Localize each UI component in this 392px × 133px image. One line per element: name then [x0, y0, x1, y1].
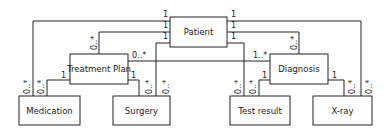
- class-patient: Patient: [170, 17, 227, 47]
- mult-treatmentplan-surgery-1: 1: [131, 71, 136, 80]
- class-diagram: Patient Treatment Plan Diagnosis Medicat…: [0, 0, 392, 133]
- mult-treatmentplan-diagnosis-0many: 0..*: [132, 51, 146, 60]
- assoc-treatmentplan-medication: [47, 80, 70, 96]
- mult-surgery-patient-0many: 0..*: [162, 80, 171, 94]
- mult-patient-medication-1: 1: [163, 10, 168, 19]
- mult-treatmentplan-medication-1: 1: [61, 71, 66, 80]
- mult-testresult-patient-0many: 0..*: [234, 80, 243, 94]
- class-surgery: Surgery: [113, 96, 170, 125]
- mult-medication-patient-0many: 0..*: [23, 80, 32, 94]
- class-label-medication: Medication: [26, 106, 72, 116]
- class-label-xray: X-ray: [331, 106, 353, 116]
- class-treatment-plan: Treatment Plan: [66, 54, 131, 84]
- mult-xray-patient-0many: 0..*: [365, 80, 374, 94]
- class-diagnosis: Diagnosis: [270, 54, 328, 84]
- mult-patient-testresult-1: 1: [231, 32, 236, 41]
- mult-patient-xray-1: 1: [231, 10, 236, 19]
- class-label-patient: Patient: [184, 27, 214, 37]
- mult-diagnosis-testresult-1: 1: [262, 71, 267, 80]
- assoc-diagnosis-xray: [328, 80, 344, 96]
- assoc-treatmentplan-surgery: [128, 80, 139, 96]
- class-label-surgery: Surgery: [125, 106, 158, 116]
- mult-patient-surgery-1: 1: [163, 32, 168, 41]
- class-label-treatment-plan: Treatment Plan: [66, 64, 131, 74]
- class-test-result: Test result: [230, 96, 290, 125]
- mult-surgery-treatmentplan-0many: 0..*: [145, 80, 154, 94]
- mult-patient-diagnosis-1: 1: [231, 21, 236, 30]
- mult-diagnosis-xray-1: 1: [332, 71, 337, 80]
- mult-patient-treatmentplan-1: 1: [163, 21, 168, 30]
- class-label-diagnosis: Diagnosis: [278, 64, 320, 74]
- mult-xray-diagnosis-0many: 0..*: [348, 80, 357, 94]
- mult-diagnosis-treatmentplan-1many: 1..*: [253, 51, 267, 60]
- mult-testresult-diagnosis-0many: 0..*: [249, 80, 258, 94]
- mult-medication-treatmentplan-0many: 0..*: [37, 80, 46, 94]
- class-label-test-result: Test result: [237, 106, 282, 116]
- mult-treatmentplan-patient-0many: 0..*: [90, 36, 99, 50]
- mult-diagnosis-patient-0many: 0..*: [290, 36, 299, 50]
- class-medication: Medication: [19, 96, 80, 125]
- class-xray: X-ray: [313, 96, 372, 125]
- assoc-diagnosis-testresult: [259, 80, 270, 96]
